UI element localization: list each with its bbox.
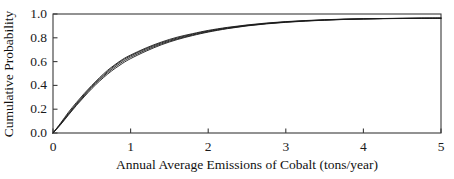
y-tick-label: 0.0	[19, 126, 47, 140]
x-axis-label: Annual Average Emissions of Cobalt (tons…	[53, 157, 441, 173]
x-tick-label: 0	[41, 140, 65, 154]
y-tick-label: 1.0	[19, 7, 47, 21]
x-tick-label: 4	[351, 140, 375, 154]
y-tick-label: 0.8	[19, 31, 47, 45]
data-curve	[53, 18, 441, 133]
y-axis-label-container: Cumulative Probability	[0, 14, 18, 133]
x-tick-label: 5	[429, 140, 453, 154]
y-tick-label: 0.2	[19, 102, 47, 116]
x-tick-label: 3	[274, 140, 298, 154]
y-tick-label: 0.6	[19, 55, 47, 69]
y-tick-label: 0.4	[19, 78, 47, 92]
x-tick-label: 2	[196, 140, 220, 154]
data-curve	[53, 18, 441, 133]
axis-ticks	[53, 14, 441, 133]
data-curves	[53, 18, 441, 133]
y-axis-label: Cumulative Probability	[1, 10, 17, 136]
data-curve	[53, 18, 441, 133]
chart-plot-area	[0, 0, 454, 179]
data-curve	[53, 18, 441, 133]
x-tick-label: 1	[119, 140, 143, 154]
plot-frame-rect	[53, 14, 441, 133]
plot-frame	[53, 14, 441, 133]
chart-figure: Cumulative Probability Annual Average Em…	[0, 0, 454, 179]
